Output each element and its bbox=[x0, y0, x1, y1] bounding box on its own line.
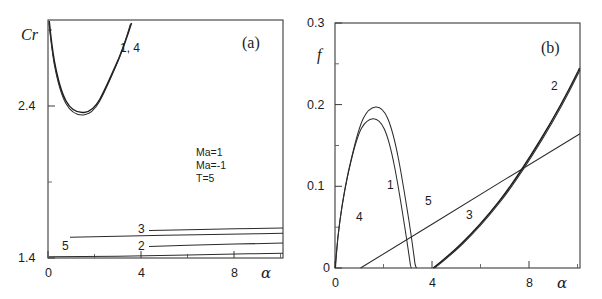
panel-b-curve-2 bbox=[435, 70, 581, 268]
panel-a-ytick-label-0: 1.4 bbox=[18, 251, 35, 265]
panel-b: f α 0 0.1 0.2 0.3 0 4 8 (b) 1 2 3 4 5 bbox=[301, 0, 602, 299]
panel-a-curve-baseline bbox=[49, 253, 283, 257]
panel-b-x-axis-label: α bbox=[557, 274, 567, 292]
panel-a-curve-5 bbox=[70, 233, 283, 237]
panel-b-label: (b) bbox=[541, 39, 560, 57]
panel-b-curve-5 bbox=[361, 134, 581, 268]
figure-root: Cr α 1.4 2.4 0 4 8 (a) 1, 4 3 5 2 Ma=1 M… bbox=[0, 0, 602, 299]
panel-b-ytick-label-3: 0.3 bbox=[307, 16, 324, 30]
panel-b-curve-label-3: 3 bbox=[466, 208, 473, 222]
panel-a-curve-label-3: 3 bbox=[138, 222, 145, 236]
panel-b-y-axis-label: f bbox=[317, 46, 324, 64]
panel-a-annotation-ma-minus-1: Ma=-1 bbox=[196, 159, 226, 171]
panel-a-ytick-label-1: 2.4 bbox=[18, 99, 35, 113]
panel-a-label: (a) bbox=[242, 34, 260, 52]
panel-a-x-axis-label: α bbox=[261, 264, 271, 282]
panel-b-ytick-label-0: 0 bbox=[323, 261, 330, 275]
panel-b-plot-frame bbox=[335, 23, 580, 268]
panel-b-xtick-label-0: 0 bbox=[332, 276, 339, 290]
panel-b-curve-label-1: 1 bbox=[387, 178, 394, 192]
panel-b-curve-label-2: 2 bbox=[551, 79, 558, 93]
panel-a-xtick-label-2: 8 bbox=[231, 266, 238, 280]
panel-b-x-ticks bbox=[335, 261, 578, 268]
panel-a-curve-1-4-upper bbox=[49, 21, 131, 113]
panel-a-annotation-t-5: T=5 bbox=[196, 172, 215, 184]
panel-a-curve-label-2: 2 bbox=[138, 239, 145, 253]
panel-a-plot-frame bbox=[48, 20, 283, 258]
panel-a-curve-label-5: 5 bbox=[62, 239, 69, 253]
panel-a-curve-1-4-lower bbox=[49, 23, 131, 115]
panel-b-xtick-label-1: 4 bbox=[429, 276, 436, 290]
panel-b-curve-4 bbox=[335, 119, 411, 268]
panel-b-ytick-label-2: 0.2 bbox=[307, 98, 324, 112]
panel-b-curve-1 bbox=[336, 107, 417, 268]
panel-a-curve-2 bbox=[149, 243, 283, 246]
panel-a-curve-label-1-4: 1, 4 bbox=[120, 41, 140, 55]
panel-a-curve-3 bbox=[149, 228, 283, 231]
panel-b-xtick-label-2: 8 bbox=[526, 276, 533, 290]
panel-b-ytick-label-1: 0.1 bbox=[307, 179, 324, 193]
panel-a-xtick-label-1: 4 bbox=[138, 266, 145, 280]
panel-b-curve-3 bbox=[433, 68, 579, 268]
panel-b-curve-label-5: 5 bbox=[425, 194, 432, 208]
panel-a: Cr α 1.4 2.4 0 4 8 (a) 1, 4 3 5 2 Ma=1 M… bbox=[0, 0, 301, 299]
panel-a-annotation-ma-1: Ma=1 bbox=[196, 146, 223, 158]
panel-b-curve-label-4: 4 bbox=[356, 210, 363, 224]
panel-a-y-axis-label: Cr bbox=[21, 26, 39, 43]
panel-a-xtick-label-0: 0 bbox=[45, 266, 52, 280]
